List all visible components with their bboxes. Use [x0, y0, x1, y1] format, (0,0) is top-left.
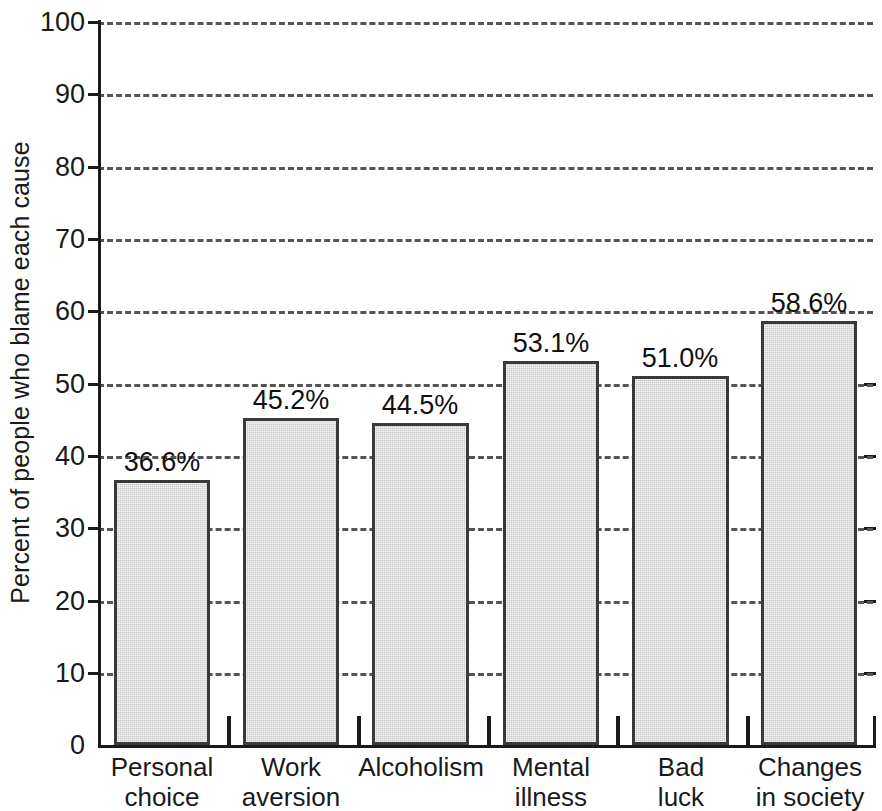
x-category-alcoholism: Alcoholism: [358, 752, 484, 782]
x-category-line2: illness: [512, 782, 590, 811]
x-category-changes-in-society: Changes in society: [756, 752, 864, 811]
bar-value-mental-illness: 53.1%: [513, 330, 590, 357]
gridline-80: [98, 167, 873, 170]
y-tick-label-50: 50: [28, 371, 85, 398]
gridline-40: [98, 456, 873, 459]
x-category-line2: aversion: [242, 782, 340, 811]
bar-mental-illness[interactable]: [503, 361, 599, 745]
bar-personal-choice[interactable]: [114, 480, 210, 745]
gridline-100: [98, 22, 873, 25]
x-category-line1: Changes: [758, 752, 862, 782]
x-category-line2: choice: [111, 782, 214, 811]
x-category-work-aversion: Work aversion: [242, 752, 340, 811]
bar-work-aversion[interactable]: [243, 418, 339, 745]
y-tick-label-20: 20: [28, 588, 85, 615]
y-tick-label-80: 80: [28, 154, 85, 181]
bar-value-personal-choice: 36.6%: [124, 449, 201, 476]
x-category-personal-choice: Personal choice: [111, 752, 214, 811]
x-category-line1: Bad: [658, 752, 704, 782]
y-tick-label-10: 10: [28, 660, 85, 687]
right-axis-corner: [873, 716, 876, 748]
x-tickmark-5: [746, 716, 750, 746]
y-tick-label-60: 60: [28, 298, 85, 325]
gridline-90: [98, 94, 873, 97]
plot-area: 36.6% 45.2% 44.5% 53.1% 51.0% 58.6%: [98, 22, 873, 745]
x-category-line1: Personal: [111, 752, 214, 782]
gridline-60: [98, 311, 873, 314]
gridline-30: [98, 528, 873, 531]
y-axis-tick-labels: 100 90 80 70 60 50 40 30 20 10 0: [28, 0, 85, 811]
x-category-line1: Alcoholism: [358, 752, 484, 782]
bar-chart: Percent of people who blame each cause 1…: [0, 0, 882, 811]
x-category-line2: in society: [756, 782, 864, 811]
bar-changes-in-society[interactable]: [761, 321, 857, 745]
gridline-20: [98, 601, 873, 604]
gridline-10: [98, 673, 873, 676]
x-category-line1: Work: [261, 752, 321, 782]
x-tickmark-1: [227, 716, 231, 746]
y-tick-label-70: 70: [28, 226, 85, 253]
x-category-bad-luck: Bad luck: [658, 752, 704, 811]
x-category-mental-illness: Mental illness: [512, 752, 590, 811]
bar-value-alcoholism: 44.5%: [382, 392, 459, 419]
x-tickmark-2: [357, 716, 361, 746]
bar-value-bad-luck: 51.0%: [642, 345, 719, 372]
y-tick-label-30: 30: [28, 515, 85, 542]
x-category-line1: Mental: [512, 752, 590, 782]
y-tick-label-100: 100: [28, 9, 85, 36]
gridline-50: [98, 384, 873, 387]
x-tickmark-4: [616, 716, 620, 746]
y-tick-label-90: 90: [28, 81, 85, 108]
x-tickmark-3: [487, 716, 491, 746]
bar-alcoholism[interactable]: [372, 423, 469, 745]
y-tick-label-40: 40: [28, 443, 85, 470]
y-axis-line: [98, 20, 101, 747]
bar-bad-luck[interactable]: [632, 376, 729, 745]
y-tick-label-0: 0: [28, 732, 85, 759]
bar-value-changes-in-society: 58.6%: [771, 290, 848, 317]
gridline-70: [98, 239, 873, 242]
x-category-line2: luck: [658, 782, 704, 811]
bar-value-work-aversion: 45.2%: [253, 387, 330, 414]
